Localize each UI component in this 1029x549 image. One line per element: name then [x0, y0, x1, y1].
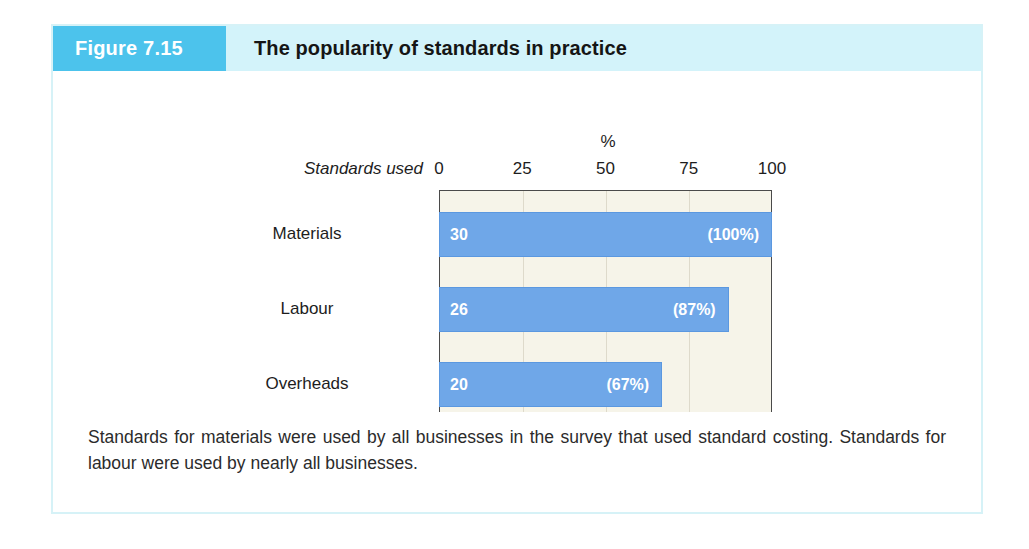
bar-percent-label: (87%) [673, 301, 716, 319]
figure-header: Figure 7.15 The popularity of standards … [53, 26, 981, 71]
bar-count-label: 26 [450, 301, 468, 319]
figure-number-badge: Figure 7.15 [53, 26, 226, 71]
x-axis-unit-label: % [588, 132, 628, 152]
category-label-labour: Labour [193, 299, 421, 319]
category-label-materials: Materials [193, 224, 421, 244]
x-tick-0: 0 [409, 159, 469, 179]
x-tick-75: 75 [659, 159, 719, 179]
bar-percent-label: (100%) [707, 226, 759, 244]
bar-chart: % Standards used 0255075100 MaterialsLab… [53, 71, 981, 416]
figure-title: The popularity of standards in practice [254, 37, 627, 60]
figure-caption: Standards for materials were used by all… [88, 424, 946, 477]
bar-materials: 30(100%) [439, 212, 772, 257]
figure-card: Figure 7.15 The popularity of standards … [51, 24, 983, 514]
bar-count-label: 30 [450, 226, 468, 244]
figure-title-container: The popularity of standards in practice [226, 26, 981, 71]
bar-labour: 26(87%) [439, 287, 729, 332]
bar-count-label: 20 [450, 376, 468, 394]
figure-number-label: Figure 7.15 [75, 37, 183, 60]
x-tick-50: 50 [576, 159, 636, 179]
x-tick-100: 100 [742, 159, 802, 179]
category-label-overheads: Overheads [193, 374, 421, 394]
bar-percent-label: (67%) [606, 376, 649, 394]
bar-overheads: 20(67%) [439, 362, 662, 407]
y-axis-label: Standards used [233, 159, 423, 179]
x-tick-25: 25 [492, 159, 552, 179]
